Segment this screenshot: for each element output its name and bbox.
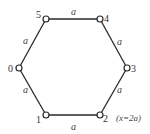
edge-label-0-5: a: [23, 35, 28, 46]
edge-3-2: [100, 68, 127, 115]
edge-label-5-4: a: [71, 6, 76, 17]
edge-label-4-3: a: [117, 36, 122, 47]
node-label-0: 0: [8, 63, 13, 74]
edge-4-3: [100, 19, 127, 68]
node-1: [43, 112, 49, 118]
node-label-3: 3: [131, 63, 136, 74]
node-label-4: 4: [104, 13, 109, 24]
node-label-2: 2: [103, 113, 108, 124]
node-5: [43, 16, 49, 22]
edge-label-1-0: a: [23, 84, 28, 95]
node-3: [124, 65, 130, 71]
node-0: [16, 65, 22, 71]
node-4: [97, 16, 103, 22]
edge-label-2-1: a: [71, 121, 76, 132]
node-label-5: 5: [36, 9, 41, 20]
edge-label-3-2: a: [117, 84, 122, 95]
hexagon-diagram: 5 4 3 2 1 0 a a a a a a (x=2a): [0, 0, 150, 134]
annotation: (x=2a): [116, 113, 141, 123]
node-label-1: 1: [36, 114, 41, 125]
